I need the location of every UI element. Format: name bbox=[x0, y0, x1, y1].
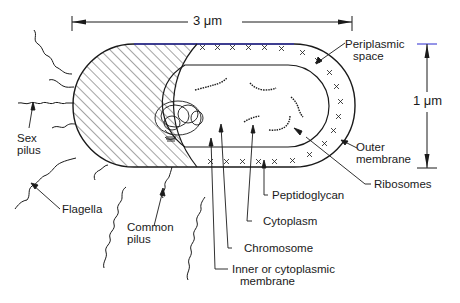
flagellum-bottom-left bbox=[15, 158, 76, 209]
label-sex-pilus: Sex pilus bbox=[17, 132, 41, 156]
label-periplasmic-space: Periplasmic space bbox=[345, 38, 404, 62]
label-flagella: Flagella bbox=[62, 203, 102, 215]
flagellum-lower-left bbox=[52, 124, 76, 128]
flagellum-upper-left bbox=[49, 80, 74, 88]
label-line: membrane bbox=[232, 275, 335, 287]
label-line: space bbox=[345, 50, 404, 62]
label-common-pilus: Common pilus bbox=[127, 221, 174, 245]
label-line: Sex bbox=[17, 132, 41, 144]
label-cytoplasm: Cytoplasm bbox=[263, 215, 317, 227]
width-dimension-label: 1 μm bbox=[411, 94, 444, 108]
peptidoglycan-marks bbox=[200, 45, 343, 164]
label-line: Common bbox=[127, 221, 174, 233]
common-pilus-long bbox=[104, 187, 126, 268]
sex-pilus-line bbox=[18, 102, 74, 103]
label-ribosomes: Ribosomes bbox=[374, 178, 432, 190]
cell-wall-exterior-hatched bbox=[60, 40, 197, 172]
flagellum-long-right bbox=[187, 197, 205, 280]
label-line: Outer bbox=[356, 141, 411, 153]
label-line: Periplasmic bbox=[345, 38, 404, 50]
label-outer-membrane: Outer membrane bbox=[356, 141, 411, 165]
inner-membrane-outline bbox=[162, 65, 329, 147]
label-peptidoglycan: Peptidoglycan bbox=[272, 189, 344, 201]
common-pilus-short bbox=[94, 165, 108, 180]
label-line: membrane bbox=[356, 153, 411, 165]
length-dimension-label: 3 μm bbox=[191, 14, 224, 28]
label-line: pilus bbox=[127, 233, 174, 245]
label-line: pilus bbox=[17, 144, 41, 156]
flagellum-top bbox=[34, 30, 72, 74]
ribosome-chains bbox=[195, 78, 303, 130]
label-chromosome: Chromosome bbox=[244, 242, 313, 254]
label-inner-membrane: Inner or cytoplasmic membrane bbox=[232, 263, 335, 287]
label-line: Inner or cytoplasmic bbox=[232, 263, 335, 275]
